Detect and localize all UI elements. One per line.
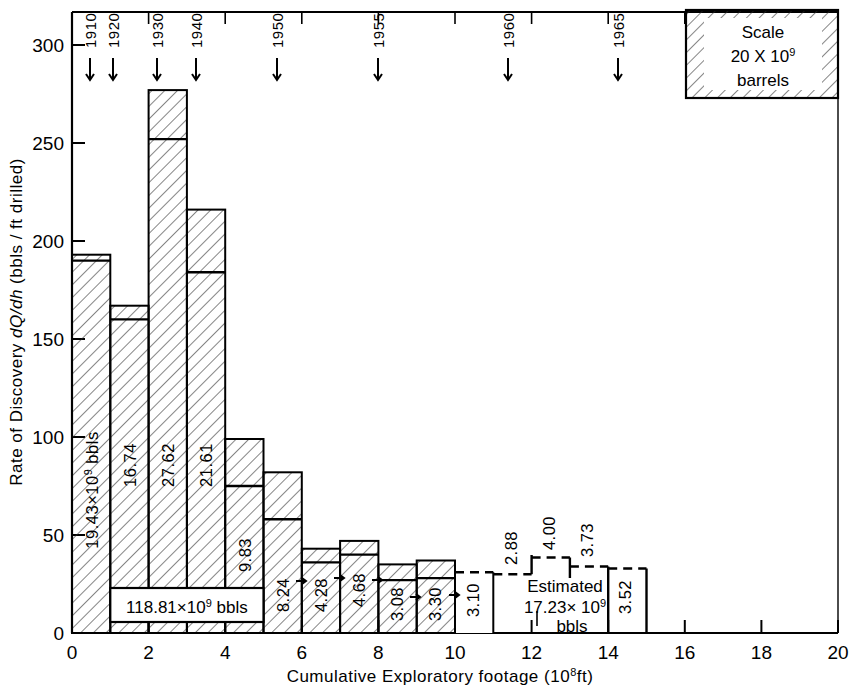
bar-2[interactable]: [149, 90, 187, 633]
year-label-1930: 1930: [149, 13, 166, 48]
bar-label-5: 8.24: [274, 578, 292, 612]
x-tick-12: 12: [521, 642, 542, 663]
year-label-1950: 1950: [269, 13, 286, 48]
bar-label-14: 3.52: [616, 580, 634, 614]
discovery-rate-histogram: 300 250 200 150 100 50 0 0 2 4 6 8 10 12…: [0, 0, 853, 687]
year-label-1960: 1960: [500, 13, 517, 48]
legend-line2: 20 X 109: [731, 46, 796, 66]
bar-label-6: 4.28: [312, 578, 330, 612]
bar-label-1: 16.74: [121, 443, 139, 487]
bar-label-2: 27.62: [159, 443, 177, 487]
y-tick-200: 200: [32, 231, 64, 252]
legend-line3: barrels: [737, 71, 789, 90]
bar-label-7: 4.68: [350, 573, 368, 607]
cumulative-discovered-label: 118.81×109 bbls: [126, 597, 248, 617]
bar-label-10: 3.10: [464, 583, 482, 617]
bar-label-4: 9.83: [236, 538, 254, 572]
year-label-1910: 1910: [82, 13, 99, 48]
x-tick-20: 20: [827, 642, 848, 663]
bar-label-11: 2.88: [502, 531, 520, 565]
y-tick-50: 50: [43, 525, 64, 546]
year-label-1955: 1955: [370, 13, 387, 48]
bar-label-9: 3.30: [426, 587, 444, 621]
year-label-1940: 1940: [188, 13, 205, 48]
x-tick-10: 10: [444, 642, 465, 663]
y-axis-title: Rate of Discovery dQ/dh (bbls / ft drill…: [7, 158, 26, 486]
x-tick-4: 4: [220, 642, 231, 663]
cumulative-discovered-box: 118.81×109 bbls: [110, 588, 263, 622]
bar-label-12: 4.00: [540, 516, 558, 550]
bar-label-0: 19.43×109 bbls: [82, 431, 101, 548]
y-tick-150: 150: [32, 329, 64, 350]
legend-line1: Scale: [742, 23, 785, 42]
x-tick-2: 2: [143, 642, 154, 663]
year-label-1965: 1965: [610, 13, 627, 48]
y-tick-100: 100: [32, 427, 64, 448]
estimated-note-line3: bbls: [556, 617, 587, 636]
bar-label-13: 3.73: [578, 523, 596, 557]
x-tick-16: 16: [674, 642, 695, 663]
estimated-note-line1: Estimated: [527, 577, 603, 596]
bar-label-8: 3.08: [388, 587, 406, 621]
bar-label-3: 21.61: [197, 443, 215, 487]
x-tick-14: 14: [598, 642, 620, 663]
y-tick-300: 300: [32, 35, 64, 56]
x-tick-8: 8: [373, 642, 384, 663]
year-label-1920: 1920: [105, 13, 122, 48]
legend-scale-box: Scale 20 X 109 barrels: [686, 10, 838, 98]
y-tick-250: 250: [32, 133, 64, 154]
y-tick-0: 0: [53, 623, 64, 644]
x-axis-title: Cumulative Exploratory footage (108ft): [287, 666, 594, 686]
x-tick-18: 18: [751, 642, 772, 663]
x-tick-6: 6: [297, 642, 308, 663]
chart-canvas: 300 250 200 150 100 50 0 0 2 4 6 8 10 12…: [0, 0, 853, 687]
x-tick-0: 0: [67, 642, 78, 663]
bar-3[interactable]: [187, 210, 225, 633]
